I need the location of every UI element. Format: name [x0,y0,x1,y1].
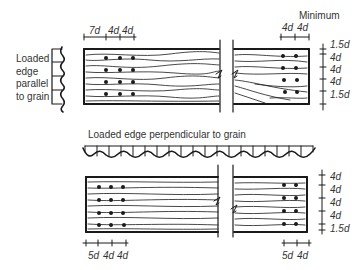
dim-bottom-vert-1: 4d [330,171,341,182]
parallel-label-line-1: Loaded [16,53,49,66]
dim-bottom-vert-5: 1.5d [330,223,349,234]
dim-top-left-edge: 7d [89,25,100,36]
bottom-right-dim-line [282,240,311,246]
minimum-label: Minimum [299,10,340,22]
parallel-load-arrows [52,47,64,112]
parallel-label-line-3: parallel [16,78,49,91]
perpendicular-load-label: Loaded edge perpendicular to grain [88,129,246,141]
perpendicular-load-arrows [83,146,315,157]
dim-top-left-spacing-1: 4d [108,25,119,36]
dim-bottom-vert-3: 4d [330,197,341,208]
dim-bottom-vert-4: 4d [330,210,341,221]
parallel-load-label: Loaded edge parallel to grain [16,53,49,103]
top-right-dim-line [280,34,309,40]
parallel-label-line-4: to grain [16,91,49,104]
dim-bottom-right-spacing-1: 5d [282,250,293,261]
top-right-vertical-dim [320,44,326,110]
dim-top-vert-3: 4d [330,64,341,75]
parallel-label-line-2: edge [16,66,49,79]
dim-top-vert-4: 4d [330,76,341,87]
dim-top-right-spacing-2: 4d [297,22,308,33]
bottom-left-board [86,177,218,232]
dim-bottom-left-spacing-1: 4d [103,250,114,261]
dim-bottom-right-spacing-2: 4d [297,250,308,261]
dim-top-vert-1: 1.5d [330,39,349,50]
dim-bottom-left-spacing-2: 4d [117,250,128,261]
dim-bottom-left-edge: 5d [88,250,99,261]
bottom-right-vertical-dim [319,170,325,234]
dim-top-vert-5: 1.5d [330,89,349,100]
bottom-left-dim-line [83,240,128,246]
dim-top-vert-2: 4d [330,52,341,63]
dim-bottom-vert-2: 4d [330,184,341,195]
dim-top-left-spacing-2: 4d [122,25,133,36]
dim-top-right-spacing-1: 4d [282,22,293,33]
top-right-board [234,49,309,104]
